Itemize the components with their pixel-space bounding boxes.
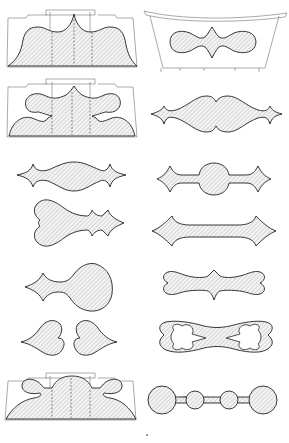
- figure-6-round-center: [157, 163, 271, 195]
- ornament-plate: [0, 0, 289, 443]
- figure-10-bone-point: [164, 270, 265, 300]
- figure-9-teardrop: [25, 263, 112, 311]
- figure-13-splat-arched: [5, 373, 136, 420]
- figure-11-heart-pair: [21, 321, 117, 356]
- figure-7-heart-end: [34, 200, 124, 246]
- figure-4-double-swell: [151, 96, 282, 132]
- page-mark: [146, 434, 148, 436]
- figure-1-splat-scalloped: [7, 10, 137, 67]
- figure-14-circle-chain: [148, 386, 277, 414]
- figure-8-narrow-bar: [152, 216, 276, 246]
- figure-12-double-heart-ring: [160, 321, 273, 352]
- figure-5-single-swell: [17, 162, 126, 191]
- figure-2-bench-apron: [144, 11, 287, 72]
- figure-3-splat-scrolls: [7, 79, 137, 137]
